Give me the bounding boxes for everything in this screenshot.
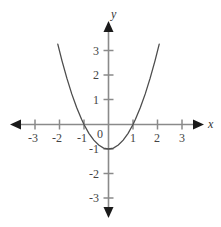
x-tick-label-neg1: -1 — [77, 132, 87, 144]
origin-label: 0 — [97, 128, 103, 140]
y-tick-label-pos2: 2 — [93, 69, 99, 81]
y-axis-top-arrowhead — [104, 21, 114, 32]
y-tick-label-neg3: -3 — [89, 192, 99, 204]
x-tick-label-pos1: 1 — [130, 132, 136, 144]
x-tick-label-pos3: 3 — [179, 132, 185, 144]
coordinate-plane-svg — [0, 0, 221, 227]
x-tick-label-pos2: 2 — [154, 132, 160, 144]
x-tick-label-neg2: -2 — [52, 132, 62, 144]
y-tick-label-pos3: 3 — [93, 45, 99, 57]
y-axis-bottom-arrowhead — [104, 207, 114, 218]
parabola-graph-figure: -3 -2 -1 1 2 3 0 3 2 1 -1 -2 -3 x y — [0, 0, 221, 227]
x-axis-label: x — [208, 118, 213, 130]
y-axis-label: y — [111, 8, 116, 20]
y-tick-label-pos1: 1 — [93, 94, 99, 106]
y-tick-label-neg2: -2 — [89, 168, 99, 180]
x-axis-left-arrowhead — [10, 120, 21, 130]
x-tick-label-neg3: -3 — [28, 132, 38, 144]
y-tick-label-neg1: -1 — [89, 143, 99, 155]
x-axis-right-arrowhead — [193, 120, 204, 130]
